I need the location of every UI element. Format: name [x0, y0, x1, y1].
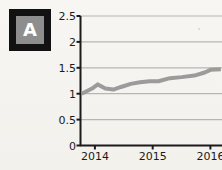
x-axis-tick-labels: 201420152016 — [0, 0, 222, 170]
scan-artifact-speck — [198, 28, 200, 30]
x-axis-tick-label: 2014 — [81, 150, 109, 163]
x-axis-tick-label: 2016 — [196, 150, 222, 163]
x-axis-tick-label: 2015 — [139, 150, 167, 163]
